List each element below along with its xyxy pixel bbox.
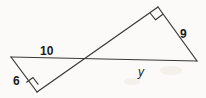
side-label-6: 6 xyxy=(13,75,20,87)
segment-diagonal-hypotenuse xyxy=(37,7,158,92)
side-label-10: 10 xyxy=(40,45,54,57)
right-angle-marker-left xyxy=(27,78,38,85)
diagram-canvas xyxy=(0,0,206,98)
geometry-figure: 10 6 9 y xyxy=(0,0,206,98)
side-label-y: y xyxy=(138,66,144,78)
right-angle-marker-top xyxy=(151,14,163,20)
segment-right-leg xyxy=(158,7,197,61)
side-label-9: 9 xyxy=(180,28,187,40)
segment-horizontal-base xyxy=(11,57,197,61)
